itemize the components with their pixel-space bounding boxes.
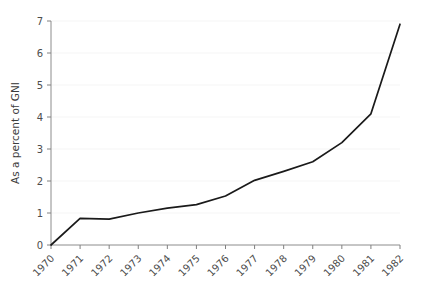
y-axis-tick-label: 1 bbox=[37, 208, 43, 219]
y-axis-tick-label: 2 bbox=[37, 176, 43, 187]
y-axis-tick-label: 0 bbox=[37, 240, 43, 251]
y-axis-tick-label: 6 bbox=[37, 48, 43, 59]
y-axis-tick-label: 7 bbox=[37, 16, 43, 27]
y-axis-tick-label: 3 bbox=[37, 144, 43, 155]
y-axis-tick-label: 5 bbox=[37, 80, 43, 91]
y-axis-tick-label: 4 bbox=[37, 112, 43, 123]
chart-background bbox=[0, 0, 426, 291]
line-chart: 01234567 1970197119721973197419751976197… bbox=[0, 0, 426, 291]
y-axis-title: As a percent of GNI bbox=[9, 82, 21, 184]
chart-container: 01234567 1970197119721973197419751976197… bbox=[0, 0, 426, 291]
